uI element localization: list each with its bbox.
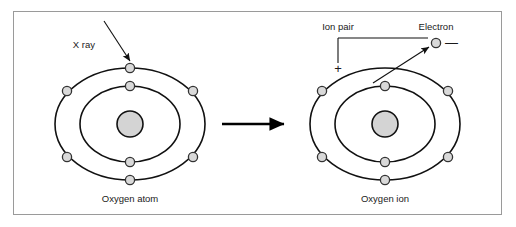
- electron-ejection-arrow: [373, 47, 429, 83]
- oxygen-ion-outer-electron-bottom-right: [443, 152, 452, 161]
- oxygen-ion-inner-electron-bottom: [380, 157, 389, 166]
- ion-positive-sign: +: [334, 61, 342, 76]
- oxygen-ion-outer-electron-bottom-left: [317, 152, 326, 161]
- xray-arrow: [104, 21, 130, 61]
- oxygen-ion-caption: Oxygen ion: [361, 193, 409, 204]
- ejected-electron-group: — Electron: [373, 21, 458, 83]
- electron-label: Electron: [419, 21, 454, 32]
- oxygen-atom-nucleus: [117, 111, 143, 137]
- ion-pair-label: Ion pair: [322, 21, 354, 32]
- electron-negative-sign: —: [445, 35, 458, 50]
- oxygen-atom-caption: Oxygen atom: [102, 193, 159, 204]
- oxygen-atom-outer-electron-top-right: [188, 86, 197, 95]
- oxygen-atom-inner-electron-bottom: [125, 157, 134, 166]
- oxygen-ion-group: Oxygen ion: [310, 68, 460, 204]
- oxygen-ion-outer-electron-top-right: [443, 86, 452, 95]
- ejected-electron: [431, 38, 440, 47]
- oxygen-atom-outer-electron-bottom: [125, 175, 134, 184]
- oxygen-atom-group: Oxygen atom: [55, 63, 205, 204]
- figure-root: Oxygen atom X ray Oxygen ion: [0, 0, 516, 227]
- oxygen-ion-outer-electron-top-left: [317, 86, 326, 95]
- oxygen-atom-inner-electron-top: [125, 81, 134, 90]
- oxygen-ion-nucleus: [372, 111, 398, 137]
- xray-label: X ray: [73, 39, 95, 50]
- oxygen-atom-outer-electron-top-left: [62, 86, 71, 95]
- oxygen-ion-outer-electron-bottom: [380, 175, 389, 184]
- oxygen-ion-inner-electron-top: [380, 81, 389, 90]
- diagram-canvas: Oxygen atom X ray Oxygen ion: [0, 0, 516, 227]
- oxygen-atom-outer-electron-top: [125, 63, 134, 72]
- oxygen-atom-outer-electron-bottom-left: [62, 152, 71, 161]
- xray-annotation: X ray: [73, 21, 130, 61]
- oxygen-atom-outer-electron-bottom-right: [188, 152, 197, 161]
